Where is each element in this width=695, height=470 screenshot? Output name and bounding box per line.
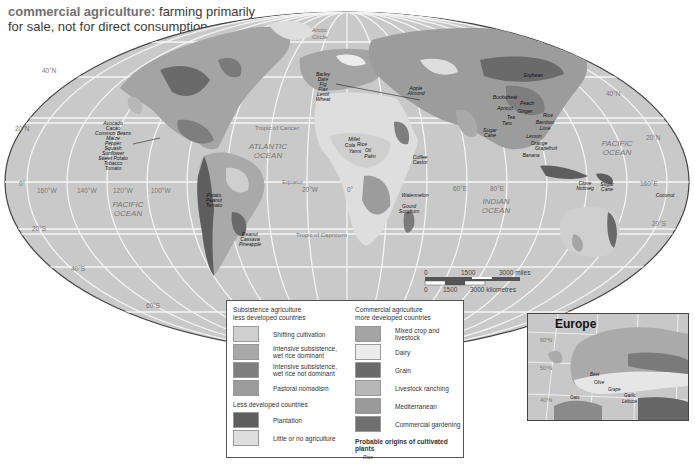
legend-item-mediterranean: Mediterranean (355, 397, 463, 415)
swatch-shifting-cultivation (233, 326, 259, 342)
crop-buckwheat: Buckwheat (493, 94, 518, 100)
legend-label: Livestock ranching (395, 385, 449, 392)
swatch-intensive-wet-rice-not-dominant (233, 362, 259, 378)
inset-title: Europe (555, 317, 596, 331)
crop-sorghum: Sorghum (399, 208, 419, 214)
inset-lat-40n: 40°N (540, 397, 552, 403)
legend-label-line2: wet rice dominant (273, 352, 324, 359)
pacific-ocean-west-label: PACIFIC (113, 200, 144, 209)
crop-almond: Almond (407, 90, 425, 96)
swatch-commercial-gardening (355, 416, 381, 432)
legend-label: Intensive subsistence,wet rice not domin… (273, 363, 337, 377)
swatch-grain (355, 362, 381, 378)
pacific-ocean-west-label-2: OCEAN (114, 209, 143, 218)
legend-item-little-or-no-agriculture: Little or no agriculture (233, 429, 343, 447)
swatch-dairy (355, 344, 381, 360)
lat-60s-label: 60°S (146, 302, 161, 309)
swatch-mixed-crop-livestock (355, 326, 381, 342)
lon-160w-label: 160°W (37, 187, 57, 194)
legend-label: Mediterranean (395, 403, 437, 410)
pacific-ocean-east-label: PACIFIC (602, 139, 633, 148)
legend-label: Commercial gardening (395, 421, 460, 428)
lon-80e-label: 80°E (490, 185, 505, 192)
swatch-plantation (233, 412, 259, 428)
legend-column-right: Commercial agriculture more developed co… (355, 306, 463, 460)
legend-label: Intensive subsistence,wet rice dominant (273, 345, 337, 359)
legend-item-pastoral-nomadism: Pastoral nomadism (233, 379, 343, 397)
pacific-ocean-east-label-2: OCEAN (603, 148, 632, 157)
scale-miles-1500: 1500 (461, 269, 476, 276)
europe-inset-map: 60°N 50°N 40°N Beet Olive Grape Oats Gar… (527, 313, 689, 421)
scale-miles-0: 0 (424, 269, 428, 276)
tropic-of-cancer-label: Tropic of Cancer (255, 125, 299, 131)
indian-ocean-label-2: OCEAN (482, 206, 511, 215)
arctic-circle-label: Arctic (312, 27, 327, 33)
legend-label: Dairy (395, 349, 410, 356)
swatch-intensive-wet-rice-dominant (233, 344, 259, 360)
legend-subheading-text: more developed countries (355, 314, 463, 322)
legend-item-plantation: Plantation (233, 411, 343, 429)
crop-watermelon: Watermelon (402, 192, 429, 198)
inset-crop-olive: Olive (594, 380, 605, 385)
atlantic-ocean-label-2: OCEAN (254, 151, 283, 160)
crop-ginger: Ginger (517, 108, 532, 114)
legend-label: Mixed crop and livestock (395, 327, 463, 341)
inset-crop-oats: Oats (570, 395, 580, 400)
map-legend: Subsistence agriculture less developed c… (226, 300, 464, 458)
legend-item-mixed-crop-livestock: Mixed crop and livestock (355, 325, 463, 343)
crop-tomato: Tomato (105, 165, 122, 171)
legend-subheading-text: less developed countries (233, 314, 343, 322)
legend-origins-example: Rice (363, 454, 463, 460)
lat-20s-label: 20°S (32, 225, 47, 232)
lon-120w-label: 120°W (113, 187, 133, 194)
legend-column-left: Subsistence agriculture less developed c… (233, 306, 343, 447)
crop-banana: Banana (522, 152, 539, 158)
crop-rice: Rice (543, 112, 553, 118)
lat-40n-east-label: 40°N (606, 90, 621, 97)
legend-label: Pastoral nomadism (273, 385, 329, 392)
indian-ocean-label: INDIAN (482, 197, 509, 206)
inset-crop-grape: Grape (608, 387, 621, 392)
atlantic-ocean-label: ATLANTIC (248, 142, 287, 151)
swatch-little-or-no-agriculture (233, 430, 259, 446)
crop-wheat: Wheat (316, 96, 331, 102)
swatch-pastoral-nomadism (233, 380, 259, 396)
tropic-of-capricorn-label: Tropic of Capricorn (296, 232, 347, 238)
inset-lat-50n: 50°N (540, 365, 552, 371)
lat-20n-label: 20°N (15, 125, 30, 132)
legend-item-shifting-cultivation: Shifting cultivation (233, 325, 343, 343)
legend-item-intensive-wet-rice-not-dominant: Intensive subsistence,wet rice not domin… (233, 361, 343, 379)
lon-160e-label: 160°E (640, 180, 658, 187)
legend-item-grain: Grain (355, 361, 463, 379)
inset-lat-60n: 60°N (540, 337, 552, 343)
crop-lemon: Lemon (526, 133, 542, 139)
lat-20n-east-label: 20°N (646, 134, 661, 141)
lon-20w-label: 20°W (302, 186, 319, 193)
crop-taro: Taro (502, 120, 512, 126)
crop-yams: Yams (349, 148, 362, 154)
crop-soybean: Soybean (523, 72, 543, 78)
lon-140w-label: 140°W (77, 187, 97, 194)
legend-item-commercial-gardening: Commercial gardening (355, 415, 463, 433)
crop-lime: Lime (540, 125, 551, 131)
legend-label: Grain (395, 367, 411, 374)
crop-nutmeg: Nutmeg (576, 185, 594, 191)
scale-km-1500: 1500 (443, 286, 458, 293)
scale-miles-3000: 3000 miles (499, 269, 531, 276)
legend-item-intensive-wet-rice-dominant: Intensive subsistence,wet rice dominant (233, 343, 343, 361)
crop-cane-png: Cane (601, 186, 613, 192)
legend-commercial-heading: Commercial agriculture more developed co… (355, 306, 463, 322)
legend-subsistence-heading: Subsistence agriculture less developed c… (233, 306, 343, 322)
crop-tomato-andes: Tomato (206, 202, 223, 208)
legend-label: Little or no agriculture (273, 435, 336, 442)
legend-item-dairy: Dairy (355, 343, 463, 361)
crop-palm: Palm (364, 153, 375, 159)
inset-crop-lettuce: Lettuce (622, 399, 637, 404)
legend-label: Shifting cultivation (273, 331, 325, 338)
inset-crop-garlic: Garlic (624, 393, 637, 398)
legend-label: Plantation (273, 417, 302, 424)
legend-item-livestock-ranching: Livestock ranching (355, 379, 463, 397)
lat-0-label: 0° (19, 180, 26, 187)
legend-heading-text: Subsistence agriculture (233, 306, 343, 314)
swatch-mediterranean (355, 398, 381, 414)
